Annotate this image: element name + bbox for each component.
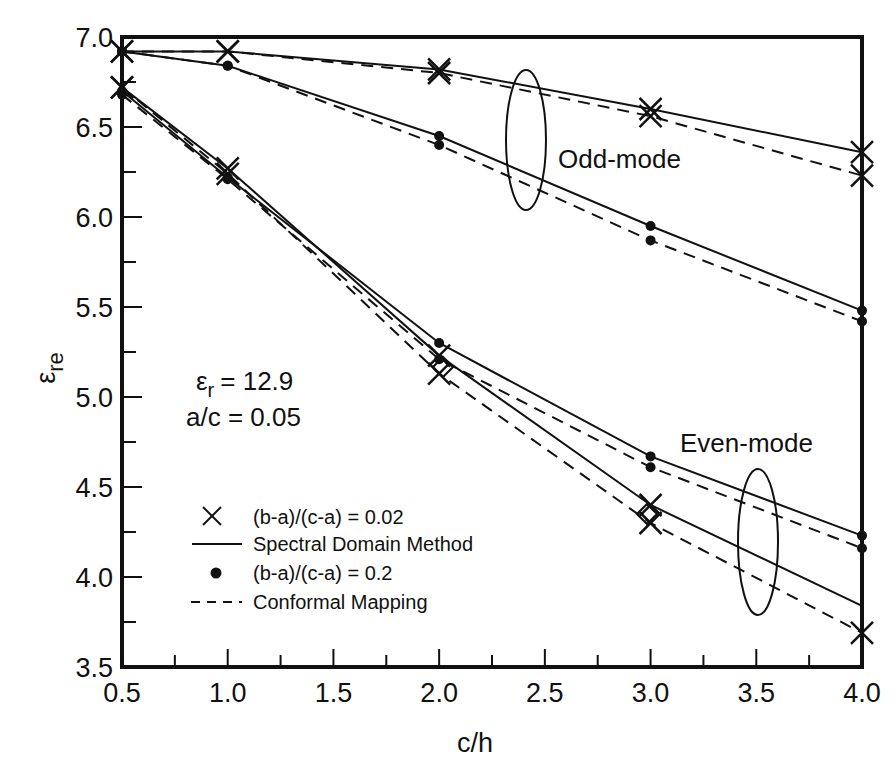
chart: 0.51.01.52.02.53.03.54.03.54.04.55.05.56… bbox=[0, 0, 896, 767]
svg-text:εre: εre bbox=[31, 352, 68, 384]
param-er-sub: r bbox=[208, 379, 215, 401]
y-axis-title-sub: re bbox=[43, 352, 68, 372]
param-er: εr= 12.9 bbox=[196, 366, 293, 401]
dot-marker-icon bbox=[434, 338, 444, 348]
x-tick-label: 1.0 bbox=[209, 678, 247, 708]
param-er-value: = 12.9 bbox=[220, 366, 293, 396]
x-tick-label: 2.5 bbox=[526, 678, 564, 708]
param-er-symbol: ε bbox=[196, 366, 208, 396]
dot-marker-icon bbox=[857, 316, 867, 326]
y-tick-label: 4.0 bbox=[75, 563, 113, 593]
legend-label-3: Conformal Mapping bbox=[253, 591, 428, 613]
x-tick-label: 1.5 bbox=[315, 678, 353, 708]
axis-ticks bbox=[122, 37, 862, 667]
dot-marker-icon bbox=[223, 174, 233, 184]
legend-label-1: Spectral Domain Method bbox=[253, 533, 473, 555]
y-tick-label: 4.5 bbox=[75, 473, 113, 503]
plot-frame bbox=[122, 37, 862, 667]
series-line-4 bbox=[122, 87, 862, 605]
y-tick-label: 3.5 bbox=[75, 653, 113, 683]
y-tick-label: 6.5 bbox=[75, 113, 113, 143]
dot-marker-icon bbox=[211, 568, 222, 579]
x-tick-label: 3.0 bbox=[632, 678, 670, 708]
diamond-markers bbox=[433, 357, 657, 524]
dot-marker-icon bbox=[857, 543, 867, 553]
legend-label-0: (b-a)/(c-a) = 0.02 bbox=[253, 506, 404, 528]
y-tick-label: 7.0 bbox=[75, 23, 113, 53]
odd-mode-label: Odd-mode bbox=[558, 144, 681, 174]
x-tick-label: 2.0 bbox=[420, 678, 458, 708]
x-marker-icon bbox=[640, 494, 662, 516]
y-axis-title: εre bbox=[31, 352, 68, 384]
dot-marker-icon bbox=[857, 306, 867, 316]
x-marker-icon bbox=[640, 512, 662, 534]
param-ac: a/c = 0.05 bbox=[186, 402, 301, 432]
series-line-1 bbox=[122, 51, 862, 175]
dot-marker-icon bbox=[117, 46, 127, 56]
dot-marker-icon bbox=[646, 462, 656, 472]
legend: (b-a)/(c-a) = 0.02 Spectral Domain Metho… bbox=[191, 506, 473, 613]
dot-marker-icon bbox=[646, 451, 656, 461]
legend-label-2: (b-a)/(c-a) = 0.2 bbox=[253, 562, 392, 584]
x-axis-title: c/h bbox=[457, 728, 493, 758]
dot-marker-icon bbox=[117, 90, 127, 100]
dot-marker-icon bbox=[434, 131, 444, 141]
dot-marker-icon bbox=[223, 61, 233, 71]
y-tick-label: 5.0 bbox=[75, 383, 113, 413]
dot-marker-icon bbox=[857, 531, 867, 541]
even-mode-label: Even-mode bbox=[680, 428, 813, 458]
dot-marker-icon bbox=[646, 221, 656, 231]
dot-marker-icon bbox=[646, 235, 656, 245]
y-tick-label: 6.0 bbox=[75, 203, 113, 233]
series-lines bbox=[122, 51, 862, 632]
dot-marker-icon bbox=[434, 354, 444, 364]
y-tick-label: 5.5 bbox=[75, 293, 113, 323]
x-tick-label: 4.0 bbox=[843, 678, 881, 708]
x-marker-icon bbox=[203, 507, 221, 525]
y-axis-title-main: ε bbox=[31, 372, 61, 384]
dot-marker-icon bbox=[434, 140, 444, 150]
x-tick-label: 3.5 bbox=[738, 678, 776, 708]
series-line-3 bbox=[122, 51, 862, 321]
